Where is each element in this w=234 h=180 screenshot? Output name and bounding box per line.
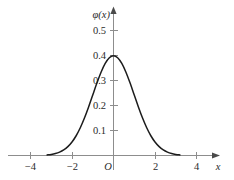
x-tick-label-neg2: −2 (67, 161, 78, 172)
y-tick-label-0p2: 0.2 (93, 100, 106, 111)
x-axis-label: x (215, 161, 221, 172)
x-axis-arrow-icon (212, 152, 220, 158)
y-axis-arrow-icon (110, 7, 116, 15)
origin-label: O (104, 161, 112, 172)
x-tick-label-neg4: −4 (25, 161, 37, 172)
y-tick-label-0p1: 0.1 (93, 125, 106, 136)
normal-distribution-chart: −4 −2 2 4 O 0.1 0.2 0.3 0.4 0.5 φ(x) x (0, 0, 234, 180)
x-tick-label-2: 2 (153, 161, 158, 172)
y-tick-label-0p4: 0.4 (93, 50, 107, 61)
y-tick-label-0p5: 0.5 (93, 25, 106, 36)
figure-container: −4 −2 2 4 O 0.1 0.2 0.3 0.4 0.5 φ(x) x (0, 0, 234, 180)
y-axis-label: φ(x) (93, 9, 111, 21)
x-tick-label-4: 4 (194, 161, 200, 172)
